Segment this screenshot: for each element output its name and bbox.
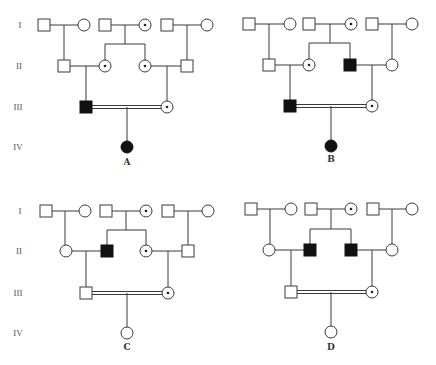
pedigree-panel-c: IIIIIIIVC: [13, 205, 214, 352]
pedigree-panel-a: IIIIIIIVA: [13, 19, 213, 167]
unaffected-male-symbol: [263, 59, 275, 71]
unaffected-male-symbol: [367, 203, 379, 215]
unaffected-female-symbol: [202, 205, 214, 217]
unaffected-male-symbol: [245, 203, 257, 215]
unaffected-male-symbol: [303, 18, 315, 30]
carrier-dot-icon: [104, 65, 107, 68]
generation-label: I: [19, 206, 22, 216]
unaffected-male-symbol: [366, 18, 378, 30]
carrier-dot-icon: [166, 106, 169, 109]
descent-line: [125, 44, 145, 60]
unaffected-male-symbol: [243, 18, 255, 30]
descent-line: [331, 229, 351, 244]
unaffected-female-symbol: [121, 327, 133, 339]
descent-line: [330, 43, 350, 59]
panel-label: B: [327, 154, 335, 164]
affected-male-symbol: [284, 100, 296, 112]
generation-label: III: [14, 288, 23, 298]
carrier-dot-icon: [144, 65, 147, 68]
unaffected-male-symbol: [100, 205, 112, 217]
unaffected-male-symbol: [162, 205, 174, 217]
generation-label: II: [16, 246, 22, 256]
generation-label: II: [16, 61, 22, 71]
carrier-dot-icon: [167, 292, 170, 295]
unaffected-male-symbol: [161, 19, 173, 31]
carrier-dot-icon: [144, 24, 147, 27]
unaffected-female-symbol: [201, 19, 213, 31]
panel-label: A: [123, 157, 132, 167]
affected-female-symbol: [121, 141, 133, 153]
generation-label: IV: [13, 328, 23, 338]
carrier-dot-icon: [145, 210, 148, 213]
unaffected-male-symbol: [58, 60, 70, 72]
unaffected-female-symbol: [284, 18, 296, 30]
panel-label: D: [327, 342, 335, 352]
unaffected-female-symbol: [325, 326, 337, 338]
affected-male-symbol: [344, 59, 356, 71]
unaffected-female-symbol: [285, 203, 297, 215]
carrier-dot-icon: [308, 64, 311, 67]
unaffected-male-symbol: [305, 203, 317, 215]
unaffected-male-symbol: [99, 19, 111, 31]
unaffected-male-symbol: [182, 245, 194, 257]
carrier-dot-icon: [350, 23, 353, 26]
unaffected-female-symbol: [78, 19, 90, 31]
carrier-dot-icon: [371, 291, 374, 294]
panel-label: C: [123, 342, 130, 352]
unaffected-male-symbol: [181, 60, 193, 72]
unaffected-male-symbol: [38, 19, 50, 31]
affected-male-symbol: [304, 244, 316, 256]
unaffected-female-symbol: [406, 18, 418, 30]
affected-male-symbol: [80, 101, 92, 113]
pedigree-figure: IIIIIIIVA B IIIIIIIVC D: [0, 0, 436, 365]
unaffected-male-symbol: [40, 205, 52, 217]
generation-label: III: [14, 102, 23, 112]
unaffected-female-symbol: [386, 59, 398, 71]
carrier-dot-icon: [145, 250, 148, 253]
carrier-dot-icon: [371, 105, 374, 108]
unaffected-female-symbol: [263, 244, 275, 256]
affected-male-symbol: [345, 244, 357, 256]
affected-female-symbol: [325, 140, 337, 152]
unaffected-female-symbol: [386, 244, 398, 256]
generation-label: IV: [13, 142, 23, 152]
descent-line: [126, 230, 146, 245]
generation-label: I: [19, 20, 22, 30]
unaffected-female-symbol: [406, 203, 418, 215]
unaffected-male-symbol: [285, 286, 297, 298]
affected-male-symbol: [101, 245, 113, 257]
pedigree-panel-b: B: [243, 18, 418, 164]
pedigree-panel-d: D: [245, 203, 418, 352]
unaffected-female-symbol: [79, 205, 91, 217]
unaffected-male-symbol: [80, 287, 92, 299]
unaffected-female-symbol: [60, 245, 72, 257]
carrier-dot-icon: [350, 208, 353, 211]
